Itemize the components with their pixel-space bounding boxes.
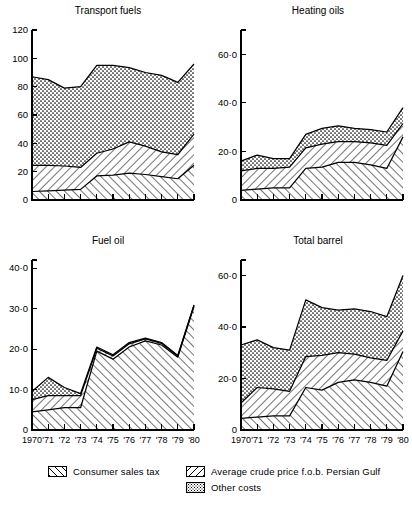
y-tick-label: 0 <box>232 194 237 205</box>
x-tick-label: '79 <box>172 435 184 445</box>
x-tick-label: '74 <box>300 435 312 445</box>
x-tick-label: '74 <box>91 435 103 445</box>
legend-label: Consumer sales tax <box>73 466 160 477</box>
y-axis-tick-labels: 020406080100120 <box>12 24 28 205</box>
chart-grid: 020406080100120 Transport fuels <box>0 0 412 460</box>
plot-area-fuel-oil <box>32 305 194 430</box>
x-tick-label: '76 <box>123 435 135 445</box>
x-tick-label: '76 <box>332 435 344 445</box>
y-tick-label: 120 <box>12 24 28 35</box>
x-tick-label: '75 <box>316 435 328 445</box>
y-tick-label: 0 <box>23 194 28 205</box>
x-tick-label: '73 <box>284 435 296 445</box>
legend-label: Average crude price f.o.b. Persian Gulf <box>211 466 380 477</box>
y-tick-label: 10·0 <box>9 384 28 395</box>
x-tick-label: '71 <box>42 435 54 445</box>
legend-swatch-back-hatch-icon <box>48 466 67 477</box>
y-axis-tick-labels: 020·040·060·0 <box>218 49 237 206</box>
x-tick-label: '71 <box>251 435 263 445</box>
plot-area-transport-fuels <box>32 64 194 200</box>
panel-title: Transport fuels <box>75 5 141 16</box>
y-tick-label: 40·0 <box>218 97 237 108</box>
x-tick-label: 1970 <box>22 435 42 445</box>
chart-panel-heating-oils: 020·040·060·0 Heating oils <box>206 0 412 230</box>
y-axis-tick-labels: 010·020·030·040·0 <box>9 262 28 435</box>
y-tick-label: 0 <box>23 424 28 435</box>
chart-svg-total-barrel: 020·040·060·0 1970'71'72'73'74'75'76'77'… <box>206 230 412 460</box>
chart-panel-fuel-oil: 010·020·030·040·0 1970'71'72'73'74'75'76… <box>0 230 206 460</box>
x-tick-label: '75 <box>107 435 119 445</box>
y-tick-label: 20·0 <box>9 343 28 354</box>
legend-swatch-dots-icon <box>186 482 205 493</box>
chart-panel-total-barrel: 020·040·060·0 1970'71'72'73'74'75'76'77'… <box>206 230 412 460</box>
chart-svg-heating-oils: 020·040·060·0 Heating oils <box>206 0 412 230</box>
x-tick-label: 1970 <box>231 435 251 445</box>
x-tick-label: '72 <box>59 435 71 445</box>
plot-area-total-barrel <box>241 275 403 430</box>
figure-root: 020406080100120 Transport fuels <box>0 0 412 514</box>
stacked-areas <box>241 108 403 200</box>
x-tick-label: '80 <box>188 435 200 445</box>
x-axis-tick-labels: 1970'71'72'73'74'75'76'77'78'79'80 <box>22 435 200 445</box>
x-tick-label: '77 <box>349 435 361 445</box>
x-tick-label: '77 <box>140 435 152 445</box>
stacked-areas <box>32 305 194 430</box>
chart-svg-transport-fuels: 020406080100120 Transport fuels <box>0 0 206 230</box>
y-tick-label: 40·0 <box>9 262 28 273</box>
panel-title: Fuel oil <box>92 235 124 246</box>
panel-title: Heating oils <box>292 5 344 16</box>
y-tick-label: 80 <box>17 81 28 92</box>
x-tick-label: '78 <box>365 435 377 445</box>
legend-label: Other costs <box>211 482 261 493</box>
y-tick-label: 20 <box>17 166 28 177</box>
y-tick-label: 20·0 <box>218 146 237 157</box>
y-tick-label: 20·0 <box>218 373 237 384</box>
stacked-areas <box>241 275 403 430</box>
y-tick-label: 60 <box>17 109 28 120</box>
figure-legend: Consumer sales tax Average crude price f… <box>0 462 412 514</box>
x-tick-label: '79 <box>381 435 393 445</box>
y-tick-label: 40 <box>17 138 28 149</box>
legend-item-consumer-sales-tax: Consumer sales tax <box>48 466 160 477</box>
x-tick-label: '80 <box>397 435 409 445</box>
y-tick-label: 100 <box>12 53 28 64</box>
x-tick-label: '78 <box>156 435 168 445</box>
x-axis-tick-labels: 1970'71'72'73'74'75'76'77'78'79'80 <box>231 435 409 445</box>
x-tick-label: '72 <box>268 435 280 445</box>
chart-svg-fuel-oil: 010·020·030·040·0 1970'71'72'73'74'75'76… <box>0 230 206 460</box>
y-tick-label: 60·0 <box>218 270 237 281</box>
y-tick-label: 30·0 <box>9 303 28 314</box>
y-tick-label: 60·0 <box>218 49 237 60</box>
legend-item-average-crude-price: Average crude price f.o.b. Persian Gulf <box>186 466 380 477</box>
legend-swatch-forward-hatch-icon <box>186 466 205 477</box>
x-tick-label: '73 <box>75 435 87 445</box>
legend-item-other-costs: Other costs <box>186 482 261 493</box>
y-tick-label: 40·0 <box>218 321 237 332</box>
plot-area-heating-oils <box>241 108 403 200</box>
y-tick-label: 0 <box>232 424 237 435</box>
chart-panel-transport-fuels: 020406080100120 Transport fuels <box>0 0 206 230</box>
panel-title: Total barrel <box>293 235 342 246</box>
y-axis-tick-labels: 020·040·060·0 <box>218 270 237 436</box>
